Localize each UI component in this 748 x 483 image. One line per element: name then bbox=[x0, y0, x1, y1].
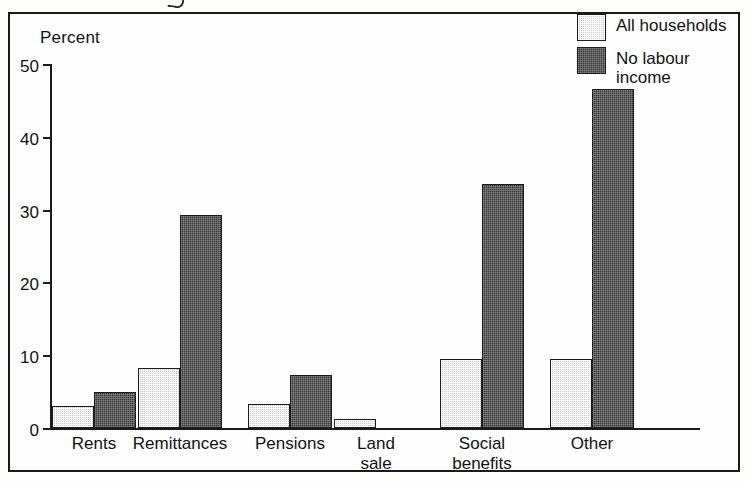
bar bbox=[550, 359, 592, 428]
bar bbox=[290, 375, 332, 428]
page-background: Percent 01020304050 RentsRemittancesPens… bbox=[0, 0, 748, 483]
legend-item: No labour income bbox=[577, 47, 742, 87]
bar bbox=[440, 359, 482, 428]
legend-label: No labour income bbox=[616, 47, 690, 87]
cropped-title-stroke bbox=[167, 0, 185, 9]
bar bbox=[94, 392, 136, 428]
plot-area: Percent 01020304050 RentsRemittancesPens… bbox=[10, 14, 742, 474]
chart-legend: All householdsNo labour income bbox=[577, 14, 742, 93]
x-axis-category-label: Social benefits bbox=[418, 434, 546, 474]
bar bbox=[592, 89, 634, 428]
bar bbox=[138, 368, 180, 428]
bar bbox=[180, 215, 222, 428]
x-axis-category-label: Remittances bbox=[116, 434, 244, 454]
bar bbox=[248, 404, 290, 428]
legend-label: All households bbox=[616, 14, 727, 35]
chart-frame: Percent 01020304050 RentsRemittancesPens… bbox=[8, 12, 740, 472]
bar bbox=[482, 184, 524, 428]
bar bbox=[52, 406, 94, 428]
legend-swatch-light bbox=[577, 14, 606, 41]
legend-item: All households bbox=[577, 14, 742, 41]
bar bbox=[334, 419, 376, 428]
x-axis-category-label: Other bbox=[528, 434, 656, 454]
legend-swatch-dark bbox=[577, 47, 606, 74]
